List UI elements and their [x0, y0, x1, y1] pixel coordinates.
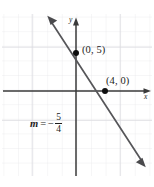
slope-equals-sign: =: [40, 118, 46, 129]
slope-negative-sign: −: [48, 118, 54, 129]
y-axis-label: y: [69, 16, 72, 24]
fraction-denominator: 4: [55, 124, 62, 134]
slope-annotation: m = − 5 4: [30, 113, 62, 134]
fraction-numerator: 5: [55, 113, 62, 123]
point-label-x-intercept: (4, 0): [106, 76, 129, 87]
grid-lines: [2, 14, 152, 176]
graph-figure: (0, 5) (4, 0) y x m = − 5 4: [0, 0, 154, 187]
coordinate-plane: (0, 5) (4, 0) y x m = − 5 4: [0, 0, 154, 187]
point-label-y-intercept: (0, 5): [82, 45, 105, 56]
plot-canvas: [0, 0, 154, 187]
x-axis-label: x: [144, 93, 147, 101]
point-y-intercept: [73, 50, 79, 56]
slope-variable: m: [30, 118, 38, 129]
slope-fraction: 5 4: [55, 113, 62, 134]
point-x-intercept: [102, 88, 108, 94]
